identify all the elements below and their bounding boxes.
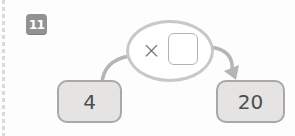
- start-value-box: 4: [57, 80, 122, 123]
- worksheet-exercise: 11 × 4 20: [0, 0, 295, 136]
- answer-box[interactable]: [168, 33, 198, 65]
- result-value: 20: [238, 90, 263, 114]
- operation-bubble: ×: [126, 20, 214, 82]
- result-value-box: 20: [216, 80, 285, 123]
- multiply-operator: ×: [142, 39, 161, 62]
- start-value: 4: [83, 90, 96, 114]
